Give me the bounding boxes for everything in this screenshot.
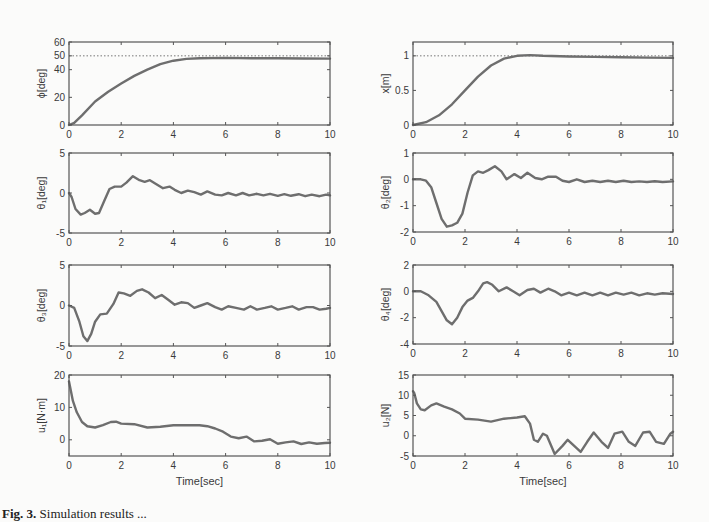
x-tick-label: 4 [171,350,177,361]
plot-phi: 0246810020405060ϕ[deg] [35,37,336,141]
y-axis-label: θ₃[deg] [35,289,47,323]
x-tick-label: 6 [223,129,229,140]
axes-box [413,153,673,232]
x-tick-label: 6 [223,237,229,248]
x-tick-label: 2 [462,348,468,359]
y-axis-label: θ₂[deg] [379,176,391,209]
y-tick-label: 0 [59,120,65,131]
x-tick-label: 0 [410,460,416,471]
x-tick-label: 10 [324,460,336,471]
y-axis-label: ϕ[deg] [35,69,47,98]
x-tick-label: 0 [66,460,72,471]
x-tick-label: 0 [66,237,72,248]
y-tick-label: 10 [398,390,410,401]
y-tick-label: 0 [403,430,409,441]
x-tick-label: 0 [410,348,416,359]
y-tick-label: 1 [403,148,409,159]
data-line [413,55,673,125]
plot-u1: 024681001020u₁[N·m]Time[sec] [35,370,336,488]
x-tick-label: 0 [66,350,72,361]
x-tick-label: 10 [667,236,679,247]
x-tick-label: 8 [618,460,624,471]
x-tick-label: 2 [462,129,468,140]
y-tick-label: 0 [59,434,65,445]
figure-caption: Fig. 3. Simulation results ... [2,506,147,522]
y-tick-label: 10 [54,402,66,413]
x-tick-label: 4 [514,129,520,140]
x-tick-label: 6 [223,350,229,361]
y-tick-label: -5 [400,451,409,462]
plot-theta2: 0246810-2-101θ₂[deg] [379,148,679,248]
x-tick-label: 0 [410,129,416,140]
y-tick-label: 20 [54,370,66,381]
data-line [69,382,330,445]
y-axis-label: θ₄[deg] [379,288,391,322]
x-tick-label: 4 [171,460,177,471]
x-tick-label: 6 [566,236,572,247]
x-tick-label: 10 [324,237,336,248]
x-tick-label: 4 [514,348,520,359]
x-tick-label: 8 [275,460,281,471]
x-tick-label: 0 [410,236,416,247]
axes-box [69,375,330,456]
y-tick-label: 2 [403,260,409,271]
x-tick-label: 2 [462,236,468,247]
x-tick-label: 4 [171,237,177,248]
plot-theta1: 0246810-505θ₁[deg] [35,148,336,249]
y-tick-label: -5 [56,341,65,352]
y-tick-label: -5 [56,228,65,239]
x-tick-label: 8 [618,129,624,140]
y-tick-label: 20 [54,92,66,103]
x-tick-label: 10 [667,348,679,359]
x-tick-label: 4 [171,129,177,140]
y-tick-label: 5 [59,148,65,159]
y-tick-label: 0 [59,300,65,311]
y-tick-label: 0 [59,188,65,199]
x-tick-label: 2 [118,350,124,361]
x-tick-label: 10 [324,129,336,140]
x-tick-label: 8 [618,348,624,359]
y-tick-label: -2 [400,312,409,323]
x-tick-label: 6 [566,460,572,471]
plot-x-position: 024681000.51x[m] [379,42,679,140]
caption-label: Fig. 3. [2,506,36,521]
x-tick-label: 6 [566,348,572,359]
y-axis-label: x[m] [379,74,391,94]
x-tick-label: 2 [118,460,124,471]
axes-box [413,265,673,344]
x-tick-label: 2 [462,460,468,471]
axes-box [413,42,673,125]
y-tick-label: 5 [59,260,65,271]
x-tick-label: 2 [118,129,124,140]
y-axis-label: u₂[N] [379,404,391,427]
x-tick-label: 10 [667,129,679,140]
x-tick-label: 6 [223,460,229,471]
caption-text: Simulation results ... [40,506,147,521]
x-tick-label: 6 [566,129,572,140]
x-tick-label: 10 [667,460,679,471]
plot-theta4: 0246810-4-202θ₄[deg] [379,260,679,360]
data-line [413,391,673,454]
plot-u2: 0246810-5051015u₂[N]Time[sec] [379,370,679,488]
x-tick-label: 8 [275,129,281,140]
x-tick-label: 8 [275,350,281,361]
y-tick-label: -4 [400,339,409,350]
y-tick-label: 40 [54,64,66,75]
x-tick-label: 8 [275,237,281,248]
y-tick-label: 0.5 [395,85,409,96]
x-tick-label: 10 [324,350,336,361]
data-line [69,176,330,214]
x-tick-label: 2 [118,237,124,248]
data-line [69,289,330,341]
x-tick-label: 8 [618,236,624,247]
y-tick-label: 15 [398,370,410,381]
data-line [413,166,673,227]
y-tick-label: 0 [403,286,409,297]
plot-theta3: 0246810-505θ₃[deg] [35,260,336,362]
y-tick-label: -2 [400,227,409,238]
x-tick-label: 0 [66,129,72,140]
y-tick-label: 5 [403,410,409,421]
axes-box [69,42,330,125]
x-axis-label: Time[sec] [519,475,566,487]
